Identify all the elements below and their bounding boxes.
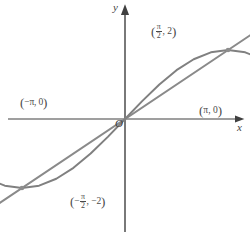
right-zero-close-paren: ) [218,103,222,118]
max-denominator: 2 [156,32,162,40]
min-sign: − [74,196,79,206]
min-fraction: π2 [80,193,86,211]
right-zero-open-paren: ( [199,103,203,118]
point-marker-max [226,48,231,53]
max-fraction: π2 [156,23,162,41]
x-axis-label: x [237,122,242,133]
min-close-paren: ) [101,194,105,209]
min-open-paren: ( [70,194,74,209]
point-label-max: (π2, 2) [151,23,176,41]
origin-label: O [115,118,123,129]
left-zero-open-paren: ( [20,95,24,110]
point-label-right-zero: (π, 0) [199,104,222,117]
min-denominator: 2 [80,202,86,210]
y-axis-label: y [113,2,118,13]
left-zero-close-paren: ) [43,95,47,110]
plot-canvas [0,0,250,238]
point-marker-min [20,186,25,191]
point-label-min: (−π2, −2) [70,193,105,211]
min-y-value: −2 [91,196,101,206]
right-zero-text: π, 0 [203,105,217,115]
max-open-paren: ( [151,24,155,39]
graph-figure: y x O (−π, 0) (π, 0) (π2, 2) (−π2, −2) [0,0,250,238]
point-label-left-zero: (−π, 0) [20,96,47,109]
max-close-paren: ) [172,24,176,39]
left-zero-text: −π, 0 [24,97,43,107]
